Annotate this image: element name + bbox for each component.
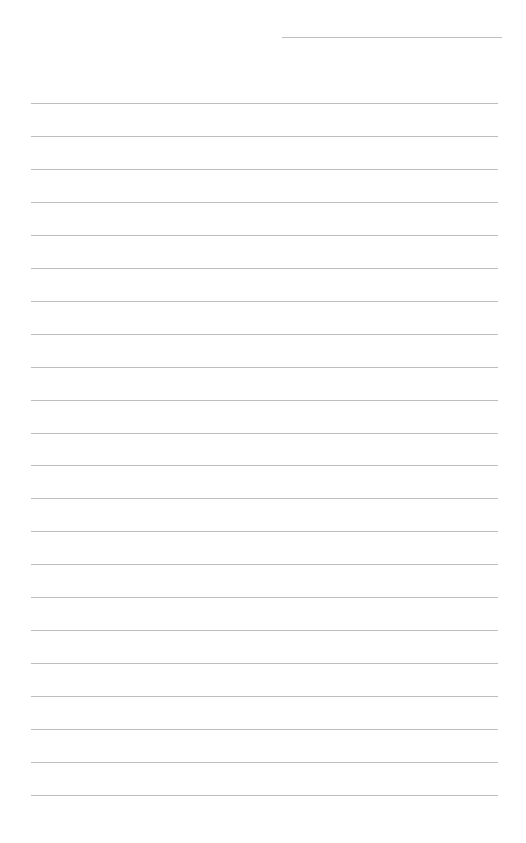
- ruled-line: [31, 235, 498, 236]
- ruled-line: [31, 136, 498, 137]
- ruled-line: [31, 301, 498, 302]
- ruled-line: [31, 334, 498, 335]
- ruled-line: [31, 367, 498, 368]
- ruled-line: [31, 103, 498, 104]
- lined-paper-page: [0, 0, 526, 843]
- ruled-line: [31, 630, 498, 631]
- ruled-line: [31, 169, 498, 170]
- ruled-line: [31, 564, 498, 565]
- ruled-line: [31, 498, 498, 499]
- ruled-line: [31, 268, 498, 269]
- ruled-line: [31, 597, 498, 598]
- ruled-line: [31, 762, 498, 763]
- ruled-line: [31, 531, 498, 532]
- ruled-line: [31, 663, 498, 664]
- ruled-line: [31, 400, 498, 401]
- ruled-line: [31, 202, 498, 203]
- ruled-line: [31, 696, 498, 697]
- ruled-line: [31, 795, 498, 796]
- header-date-line: [282, 37, 502, 38]
- ruled-line: [31, 465, 498, 466]
- ruled-line: [31, 729, 498, 730]
- ruled-line: [31, 433, 498, 434]
